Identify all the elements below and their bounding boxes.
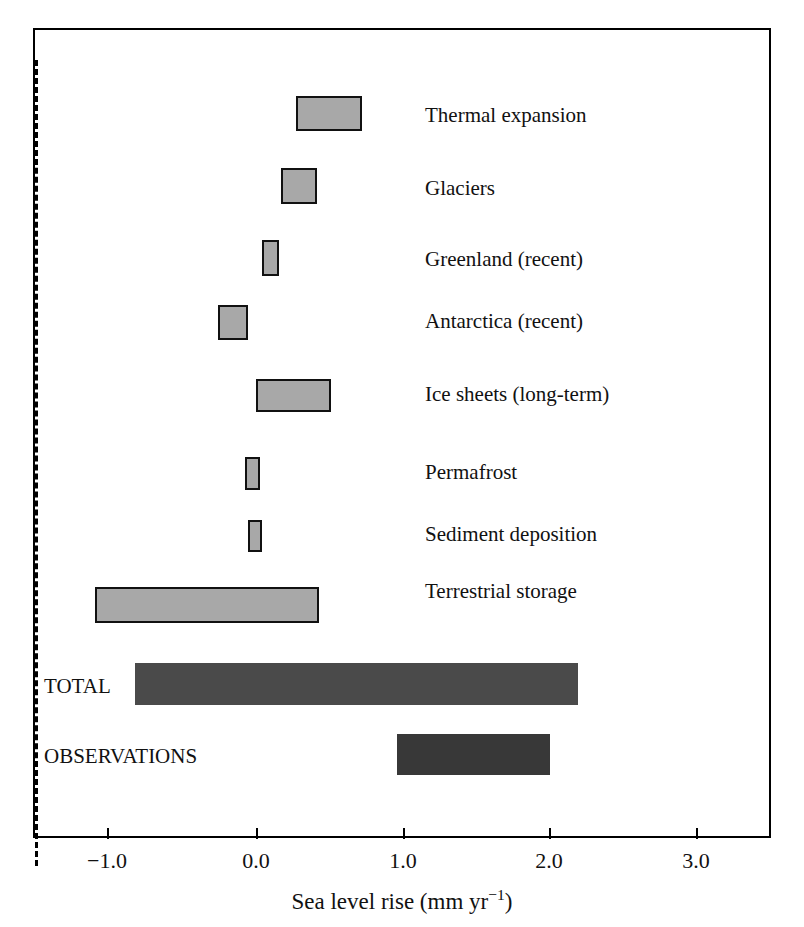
- x-axis-title: Sea level rise (mm yr−1): [0, 886, 804, 915]
- bar-terrestrial-storage: [95, 587, 319, 623]
- plot-frame: [33, 28, 771, 838]
- label-permafrost: Permafrost: [425, 462, 517, 483]
- bar-glaciers: [281, 168, 317, 204]
- xtick-1.0: [403, 828, 405, 839]
- label-antarctica-recent: Antarctica (recent): [425, 311, 583, 332]
- xtick-2.0: [549, 828, 551, 839]
- label-total: TOTAL: [44, 676, 111, 697]
- xtick-label--1.0: −1.0: [87, 848, 127, 874]
- x-axis-title-exponent: −1: [488, 886, 505, 903]
- label-glaciers: Glaciers: [425, 178, 495, 199]
- label-terrestrial-storage: Terrestrial storage: [425, 581, 577, 602]
- bar-observations: [397, 734, 550, 775]
- bar-thermal-expansion: [296, 96, 362, 131]
- xtick-3.0: [696, 828, 698, 839]
- xtick-label-0.0: 0.0: [242, 848, 270, 874]
- sea-level-rise-chart: Thermal expansion Glaciers Greenland (re…: [0, 0, 804, 927]
- bar-greenland-recent: [262, 240, 279, 276]
- bar-permafrost: [245, 457, 260, 490]
- zero-reference-line: [35, 60, 38, 866]
- xtick--1.0: [107, 828, 109, 839]
- x-axis-title-close: ): [505, 889, 513, 914]
- label-greenland-recent: Greenland (recent): [425, 249, 583, 270]
- x-axis-title-main: Sea level rise (mm yr: [291, 889, 488, 914]
- label-observations: OBSERVATIONS: [44, 746, 197, 767]
- bar-sediment-deposition: [248, 520, 262, 552]
- bar-total: [135, 663, 578, 705]
- bar-antarctica-recent: [218, 305, 248, 340]
- xtick-label-2.0: 2.0: [535, 848, 563, 874]
- bar-ice-sheets-long-term: [256, 379, 331, 412]
- xtick-0.0: [256, 828, 258, 839]
- label-thermal-expansion: Thermal expansion: [425, 105, 587, 126]
- xtick-label-3.0: 3.0: [682, 848, 710, 874]
- label-sediment-deposition: Sediment deposition: [425, 524, 597, 545]
- xtick-label-1.0: 1.0: [389, 848, 417, 874]
- label-ice-sheets-long-term: Ice sheets (long-term): [425, 384, 609, 405]
